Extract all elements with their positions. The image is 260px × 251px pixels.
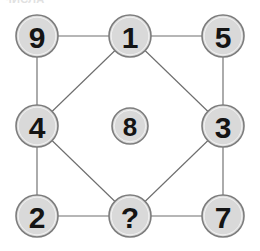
- graph-node-3[interactable]: 3: [202, 105, 244, 147]
- number-graph: 9154832?7: [0, 0, 260, 251]
- node-label: 4: [29, 111, 46, 144]
- graph-node-unknown[interactable]: ?: [109, 195, 151, 237]
- node-label: 1: [122, 21, 139, 54]
- node-label: ?: [121, 201, 139, 234]
- graph-node-8[interactable]: 8: [112, 108, 148, 144]
- node-label: 7: [215, 201, 232, 234]
- graph-edge: [52, 140, 116, 201]
- graph-edge: [145, 140, 209, 201]
- graph-node-2[interactable]: 2: [16, 195, 58, 237]
- puzzle-diagram: ЧИСЛА 9154832?7: [0, 0, 260, 251]
- node-label: 8: [123, 112, 137, 142]
- node-label: 5: [215, 21, 232, 54]
- node-label: 9: [29, 21, 46, 54]
- graph-node-5[interactable]: 5: [202, 15, 244, 57]
- graph-node-9[interactable]: 9: [16, 15, 58, 57]
- node-label: 2: [29, 201, 46, 234]
- graph-edge: [145, 50, 209, 111]
- graph-node-7[interactable]: 7: [202, 195, 244, 237]
- graph-node-1[interactable]: 1: [109, 15, 151, 57]
- node-label: 3: [215, 111, 232, 144]
- graph-node-4[interactable]: 4: [16, 105, 58, 147]
- nodes-group: 9154832?7: [16, 15, 244, 237]
- graph-edge: [52, 50, 116, 111]
